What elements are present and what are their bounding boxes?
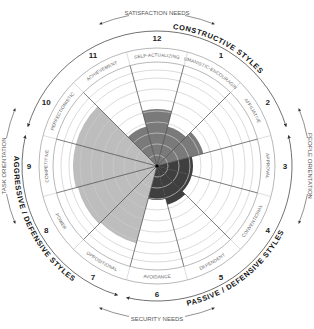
style-wedges (73, 107, 203, 244)
style-number: 1 (219, 51, 224, 60)
axis-label-left: TASK ORIENTATION (1, 137, 7, 194)
cluster-label-constructive: CONSTRUCTIVE STYLES (173, 22, 266, 76)
style-label: PERFECTIONISTIC (50, 91, 76, 131)
style-number: 4 (266, 226, 271, 235)
band-divider (74, 240, 84, 250)
style-label: HUMANISTIC-ENCOURAGING (0, 0, 238, 90)
band-divider (231, 240, 241, 250)
style-number: 3 (283, 162, 288, 171)
band-divider (126, 266, 130, 280)
axis-label-top: SATISFACTION NEEDS (124, 10, 189, 16)
band-divider (257, 193, 271, 197)
circumplex-diagram: HUMANISTIC-ENCOURAGINGAFFILIATIVEAPPROVA… (0, 0, 314, 329)
band-divider (74, 83, 84, 93)
style-label: DEPENDENT (199, 252, 227, 271)
style-number: 9 (27, 162, 32, 171)
style-label: SELF-ACTUALIZING (134, 53, 181, 60)
center-dot (155, 164, 158, 167)
style-number: 7 (91, 273, 96, 282)
style-number: 10 (42, 98, 51, 107)
style-label: AVOIDANCE (143, 274, 171, 280)
style-number: 8 (44, 226, 49, 235)
band-divider (184, 266, 188, 280)
style-number: 12 (153, 34, 162, 43)
style-label: AFFILIATIVE (243, 97, 261, 124)
style-label: OPPOSITIONAL (85, 250, 118, 272)
style-number: 6 (155, 290, 160, 299)
style-number: 5 (219, 273, 224, 282)
band-divider (43, 193, 57, 197)
band-divider (43, 135, 57, 139)
style-number: 2 (266, 98, 271, 107)
style-number: 11 (89, 51, 98, 60)
axis-label-bottom: SECURITY NEEDS (131, 316, 184, 322)
style-label: APPROVAL (265, 153, 271, 179)
style-label: COMPETITIVE (44, 149, 50, 182)
axis-label-right: PEOPLE ORIENTATION (307, 133, 313, 199)
style-label: ACHIEVEMENT (86, 60, 119, 82)
band-divider (257, 135, 271, 139)
band-divider (126, 52, 130, 66)
